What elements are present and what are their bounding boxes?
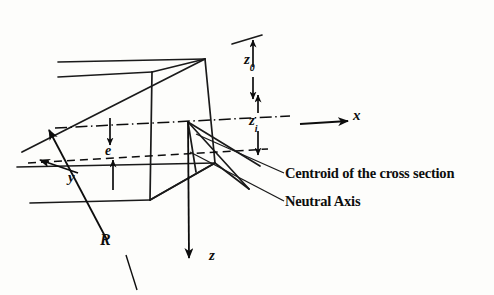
z-inner-dimension-label: zi (249, 113, 258, 131)
z-inner-subscript: i (255, 123, 258, 134)
dimension-arrows (110, 40, 258, 190)
figure-canvas: z0 zi e R x y z Centroid of the cross se… (0, 0, 494, 295)
beam-top-far-edge (58, 59, 205, 62)
beam-top-tick-extension (232, 35, 262, 44)
cross-section-left-edge (150, 72, 152, 200)
z-outer-base: z (244, 51, 250, 67)
curved-beam-diagram-svg (0, 0, 494, 295)
radius-label: R (100, 232, 111, 248)
eccentricity-label: e (105, 144, 111, 158)
radius-leader-break (126, 255, 137, 290)
beam-far-lower-tail (215, 163, 249, 189)
neutral-axis-line (28, 149, 268, 163)
beam-inner-diagonal-a (150, 163, 215, 200)
centroid-callout-label: Centroid of the cross section (285, 166, 454, 181)
beam-bottom-near-edge (30, 200, 150, 203)
z-inner-base: z (249, 112, 255, 128)
z-outer-dimension-label: z0 (244, 52, 255, 70)
beam-top-face-right (152, 59, 205, 72)
callout-leader-lines (190, 134, 284, 201)
beam-back-top-edge (22, 59, 205, 152)
y-axis-label: y (68, 170, 75, 185)
x-axis-label: x (353, 108, 361, 123)
z-axis-arrow (188, 122, 189, 258)
neutral-axis-leader-line (190, 152, 284, 201)
x-axis-arrow (300, 121, 348, 124)
z-axis-label: z (209, 248, 215, 263)
beam-top-near-edge (58, 72, 152, 77)
beam-back-lower-edge (17, 163, 215, 167)
radius-arrow (49, 130, 107, 240)
z-outer-subscript: 0 (250, 62, 255, 73)
neutral-axis-callout-label: Neutral Axis (285, 194, 360, 209)
